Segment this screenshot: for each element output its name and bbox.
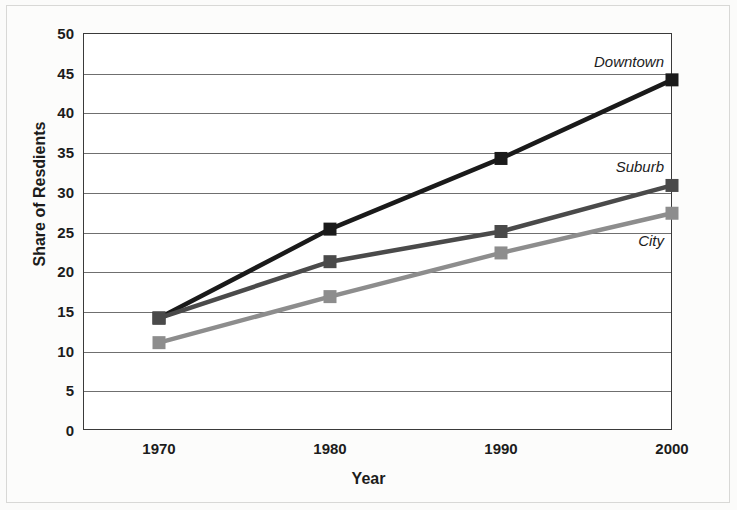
series-layer (83, 33, 672, 430)
series-label-downtown: Downtown (594, 54, 664, 69)
x-tick-label: 1970 (114, 441, 204, 456)
data-point-marker (324, 290, 337, 303)
data-point-marker (666, 179, 679, 192)
y-tick-label: 15 (28, 304, 74, 319)
y-tick-label: 50 (28, 26, 74, 41)
data-point-marker (495, 246, 508, 259)
series-downtown (153, 73, 679, 324)
y-axis-label: Share of Resdients (31, 94, 49, 294)
y-tick-label: 5 (28, 383, 74, 398)
series-line (159, 80, 672, 318)
data-point-marker (495, 225, 508, 238)
series-label-suburb: Suburb (616, 159, 664, 174)
x-tick-label: 1980 (285, 441, 375, 456)
chart-figure: 05101520253035404550 1970198019902000 Sh… (0, 0, 737, 510)
x-axis-label: Year (0, 470, 737, 488)
y-tick-label: 0 (28, 423, 74, 438)
data-point-marker (666, 73, 679, 86)
x-tick-label: 1990 (456, 441, 546, 456)
data-point-marker (153, 336, 166, 349)
x-tick-label: 2000 (627, 441, 717, 456)
data-point-marker (324, 255, 337, 268)
data-point-marker (153, 312, 166, 325)
series-line (159, 185, 672, 318)
y-tick-label: 45 (28, 66, 74, 81)
data-point-marker (495, 152, 508, 165)
y-tick-label: 10 (28, 344, 74, 359)
data-point-marker (324, 223, 337, 236)
series-label-city: City (638, 233, 664, 248)
data-point-marker (666, 207, 679, 220)
series-suburb (153, 179, 679, 325)
